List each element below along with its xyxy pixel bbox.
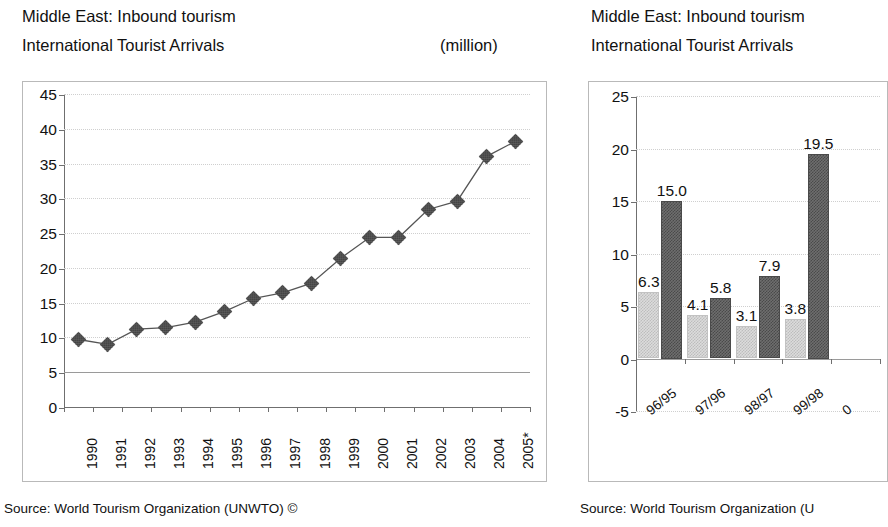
- bar-value-label: 15.0: [657, 183, 687, 199]
- x-axis-label-2002: 2002: [434, 438, 448, 469]
- x-axis-label-1998: 1998: [318, 438, 332, 469]
- y-tick-15: [631, 202, 636, 203]
- x-axis-label-1990: 1990: [85, 438, 99, 469]
- bar-98-97-dark: [759, 276, 780, 359]
- y-axis-label-15: 15: [612, 194, 629, 210]
- x-axis-label-2003: 2003: [463, 438, 477, 469]
- left-chart-source: Source: World Tourism Organization (UNWT…: [4, 501, 298, 517]
- y-tick-25: [631, 97, 636, 98]
- x-axis-line: [64, 407, 530, 408]
- y-axis-label-20: 20: [40, 261, 57, 277]
- x-axis-label-1997: 1997: [288, 438, 302, 469]
- bar-value-label: 3.1: [736, 308, 758, 324]
- y-axis-label-10: 10: [612, 247, 629, 263]
- y-tick-5: [631, 307, 636, 308]
- x-axis-label-2005star: 2005*: [521, 432, 535, 469]
- x-axis-label-1994: 1994: [201, 438, 215, 469]
- bar-value-label: 6.3: [638, 274, 660, 290]
- x-tick: [880, 359, 881, 364]
- line-path: [64, 94, 530, 407]
- y-axis-label-0: 0: [48, 400, 57, 416]
- x-tick: [782, 359, 783, 364]
- line-chart: 051015202530354045 199019911992199319941…: [22, 81, 547, 482]
- bar-97-96-light: [687, 315, 708, 358]
- bar-97-96-dark: [710, 298, 731, 359]
- y-axis-label-30: 30: [40, 192, 57, 208]
- gridline-25: 25: [636, 96, 880, 97]
- y-axis-label-25: 25: [612, 89, 629, 105]
- bar-99-98-dark: [808, 154, 829, 359]
- y-axis-label-40: 40: [40, 122, 57, 138]
- y-tick-20: [631, 150, 636, 151]
- bar-value-label: 3.8: [785, 301, 807, 317]
- x-axis-label-1992: 1992: [143, 438, 157, 469]
- x-tick: [734, 359, 735, 364]
- x-tick: [685, 359, 686, 364]
- x-axis-label-1993: 1993: [172, 438, 186, 469]
- x-tick: [636, 359, 637, 364]
- gridline-20: 20: [636, 149, 880, 150]
- bar-chart-plot-area: -50510152025 6.315.04.15.83.17.93.819.5: [636, 96, 880, 411]
- bar-99-98-light: [785, 319, 806, 359]
- y-axis-label-10: 10: [40, 331, 57, 347]
- right-chart-source: Source: World Tourism Organization (U: [580, 501, 814, 517]
- bar-value-label: 19.5: [803, 136, 833, 152]
- right-chart-title-line1: Middle East: Inbound tourism: [591, 2, 805, 31]
- x-axis-label-2000: 2000: [376, 438, 390, 469]
- x-axis-label-1999: 1999: [347, 438, 361, 469]
- bar-98-97-light: [736, 326, 757, 359]
- x-axis-label-1995: 1995: [230, 438, 244, 469]
- y-axis-label-5: 5: [48, 365, 57, 381]
- left-chart-panel: Middle East: Inbound tourism Internation…: [0, 0, 570, 527]
- left-chart-title-line1: Middle East: Inbound tourism: [22, 2, 236, 31]
- bar-96-95-dark: [661, 201, 682, 359]
- right-chart-title-line2: International Tourist Arrivals: [591, 31, 793, 60]
- y-axis-label-15: 15: [40, 296, 57, 312]
- y-tick-10: [631, 255, 636, 256]
- x-axis-label-1996: 1996: [259, 438, 273, 469]
- right-chart-panel: Middle East: Inbound tourism Internation…: [570, 0, 870, 527]
- bar-96-95-light: [638, 292, 659, 358]
- y-tick--5: [631, 412, 636, 413]
- y-axis-label--5: -5: [615, 404, 629, 420]
- bar-value-label: 5.8: [710, 280, 732, 296]
- y-axis-label-45: 45: [40, 87, 57, 103]
- x-axis-label-1991: 1991: [114, 438, 128, 469]
- y-axis-label-35: 35: [40, 157, 57, 173]
- x-tick: [831, 359, 832, 364]
- line-chart-plot-area: 051015202530354045: [64, 94, 530, 407]
- bar-value-label: 7.9: [759, 258, 781, 274]
- bar-value-label: 4.1: [687, 297, 709, 313]
- x-tick: [530, 407, 531, 412]
- left-chart-title-line2: International Tourist Arrivals: [22, 31, 224, 60]
- x-axis-ticks: [636, 359, 880, 365]
- y-axis-label-5: 5: [620, 299, 629, 315]
- x-axis-label-2001: 2001: [405, 438, 419, 469]
- bar-chart: -50510152025 6.315.04.15.83.17.93.819.5 …: [588, 81, 888, 482]
- y-axis-label-20: 20: [612, 142, 629, 158]
- y-axis-label-25: 25: [40, 226, 57, 242]
- line-series: [64, 94, 530, 407]
- y-axis-label-0: 0: [620, 352, 629, 368]
- x-axis-label-2004: 2004: [492, 438, 506, 469]
- left-chart-unit-label: (million): [440, 31, 498, 60]
